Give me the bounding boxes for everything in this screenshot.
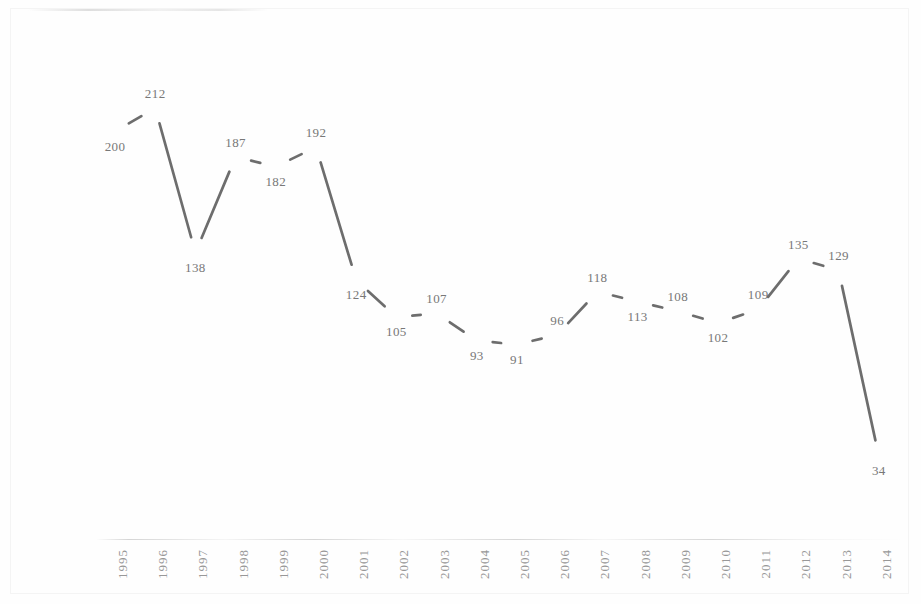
x-axis-tick-label: 2002 xyxy=(396,549,412,579)
line-segment xyxy=(693,316,702,319)
line-segment xyxy=(412,315,420,316)
x-axis-tick-label: 2003 xyxy=(437,549,453,579)
data-point-label: 34 xyxy=(872,463,886,479)
data-point-label: 192 xyxy=(306,125,327,141)
data-point-label: 96 xyxy=(550,313,564,329)
line-segment xyxy=(493,342,501,343)
line-segment xyxy=(733,315,743,318)
x-axis-tick-label: 2010 xyxy=(718,549,734,579)
x-axis-tick-label: 2001 xyxy=(356,549,372,579)
data-point-label: 200 xyxy=(105,139,126,155)
data-point-label: 118 xyxy=(587,270,607,286)
data-point-label: 212 xyxy=(145,86,166,102)
line-segment xyxy=(290,154,301,160)
line-segment xyxy=(368,291,385,306)
data-point-label: 182 xyxy=(265,174,286,190)
data-point-label: 129 xyxy=(828,248,849,264)
x-axis-tick-label: 1995 xyxy=(115,549,131,579)
line-segment xyxy=(768,271,788,297)
x-axis-tick-label: 2006 xyxy=(557,549,573,579)
line-segment xyxy=(842,286,875,440)
data-point-label: 93 xyxy=(470,348,484,364)
line-segment xyxy=(129,116,142,123)
data-point-label: 124 xyxy=(346,287,367,303)
data-point-label: 113 xyxy=(627,309,647,325)
line-segment xyxy=(450,322,464,331)
x-axis-tick-label: 1999 xyxy=(276,549,292,579)
data-point-label: 187 xyxy=(225,135,246,151)
x-axis-tick-label: 2005 xyxy=(517,549,533,579)
data-point-label: 107 xyxy=(426,291,447,307)
line-segment xyxy=(613,296,622,298)
data-point-label: 108 xyxy=(667,289,688,305)
data-point-label: 135 xyxy=(788,237,809,253)
line-segments-group xyxy=(129,116,876,440)
line-chart-plot-area: 2002121381871821921241051079391961181131… xyxy=(0,0,921,604)
x-axis-tick-label: 2012 xyxy=(798,549,814,579)
line-segment xyxy=(814,263,823,266)
line-segment xyxy=(533,339,542,341)
data-point-label: 91 xyxy=(510,352,524,368)
data-point-label: 138 xyxy=(185,260,206,276)
x-axis-tick-label: 2013 xyxy=(839,549,855,579)
line-segment xyxy=(202,172,230,238)
x-axis-tick-label: 2014 xyxy=(879,549,895,579)
x-axis-tick-label: 2004 xyxy=(477,549,493,579)
line-segment xyxy=(653,305,662,307)
x-axis-tick-label: 1997 xyxy=(195,549,211,579)
x-axis-tick-label: 1996 xyxy=(155,549,171,579)
x-axis-tick-label: 2011 xyxy=(758,549,774,579)
line-segment xyxy=(321,162,352,264)
x-axis-tick-label: 2008 xyxy=(638,549,654,579)
line-segment xyxy=(159,123,191,237)
x-axis-tick-label: 2000 xyxy=(316,549,332,579)
data-point-label: 102 xyxy=(708,330,729,346)
x-axis-tick-label: 2007 xyxy=(597,549,613,579)
line-series-layer xyxy=(0,0,921,604)
chart-screenshot: 2002121381871821921241051079391961181131… xyxy=(0,0,921,604)
line-segment xyxy=(568,303,586,323)
x-axis-tick-label: 1998 xyxy=(236,549,252,579)
x-axis-tick-label: 2009 xyxy=(678,549,694,579)
line-segment xyxy=(251,161,260,163)
data-point-label: 109 xyxy=(748,287,769,303)
data-point-label: 105 xyxy=(386,324,407,340)
